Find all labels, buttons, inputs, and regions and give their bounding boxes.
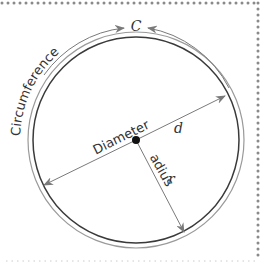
circle-parts-diagram: Circumference C Diameter d Radius r [0,0,261,264]
diagram-canvas: Circumference C Diameter d Radius r [0,0,261,264]
diameter-symbol: d [174,120,183,136]
center-point [132,136,140,144]
circumference-symbol: C [131,18,142,34]
